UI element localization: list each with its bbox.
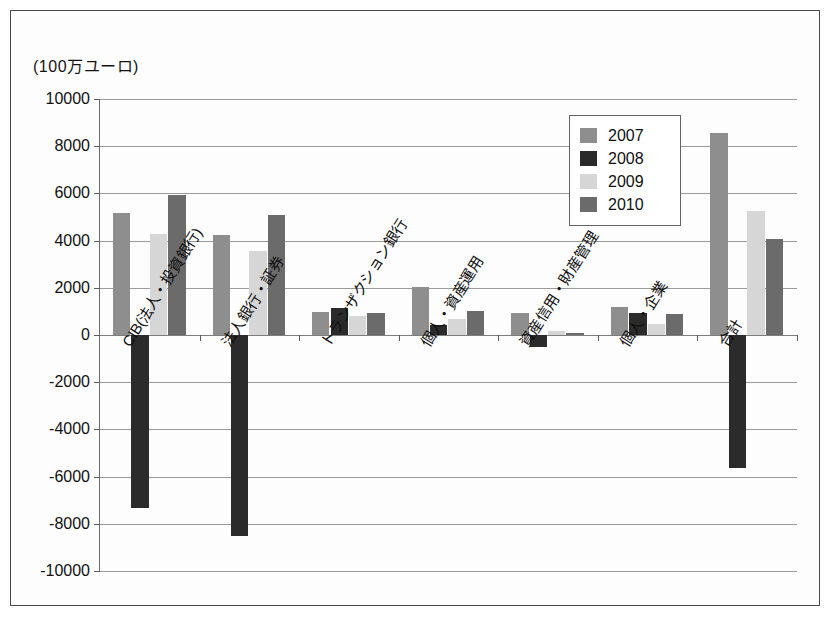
legend-label: 2007	[608, 128, 644, 144]
y-axis-tick-label: -4000	[49, 420, 90, 438]
figure-frame: (100万ユーロ) 1000080006000400020000-2000-40…	[10, 10, 820, 606]
bar-group	[399, 99, 499, 571]
bar-2010-7	[766, 239, 783, 335]
chart-plot-area: 1000080006000400020000-2000-4000-6000-80…	[99, 99, 797, 571]
legend-item-2007: 2007	[580, 124, 670, 147]
gridline	[100, 571, 797, 572]
bar-2007-7	[710, 133, 727, 335]
bar-group	[697, 99, 797, 571]
y-axis-tick-label: -6000	[49, 468, 90, 486]
legend-swatch-icon	[580, 197, 597, 212]
bar-2010-6	[666, 314, 683, 335]
legend-item-2008: 2008	[580, 147, 670, 170]
bar-2009-6	[648, 324, 665, 335]
legend-label: 2010	[608, 197, 644, 213]
bar-group	[200, 99, 300, 571]
y-axis-tick-label: 10000	[46, 90, 91, 108]
bar-2008-7	[729, 335, 746, 468]
y-axis-tick-label: 2000	[54, 279, 90, 297]
y-axis-tick-label: -8000	[49, 515, 90, 533]
y-axis-tick-label: 4000	[54, 232, 90, 250]
bar-2007-1	[113, 213, 130, 335]
chart-legend: 2007200820092010	[569, 115, 681, 226]
legend-label: 2009	[608, 174, 644, 190]
y-axis-tick-label: 6000	[54, 184, 90, 202]
y-axis-tick-label: -2000	[49, 373, 90, 391]
legend-swatch-icon	[580, 151, 597, 166]
legend-item-2009: 2009	[580, 170, 670, 193]
bar-2008-1	[131, 335, 148, 508]
legend-swatch-icon	[580, 128, 597, 143]
y-axis-tick-label: -10000	[40, 562, 90, 580]
bar-2010-4	[467, 311, 484, 335]
x-axis-tick	[797, 335, 798, 341]
bar-2010-3	[367, 313, 384, 335]
bar-group	[100, 99, 200, 571]
legend-item-2010: 2010	[580, 193, 670, 216]
bar-group	[299, 99, 399, 571]
y-axis-tick	[94, 571, 100, 572]
bar-2010-5	[566, 333, 583, 335]
bar-2009-5	[548, 331, 565, 335]
unit-caption: (100万ユーロ)	[33, 53, 139, 77]
legend-label: 2008	[608, 151, 644, 167]
y-axis-tick-label: 8000	[54, 137, 90, 155]
legend-swatch-icon	[580, 174, 597, 189]
bar-2009-4	[448, 319, 465, 335]
chart-canvas: 1000080006000400020000-2000-4000-6000-80…	[99, 99, 797, 571]
y-axis-tick-label: 0	[81, 326, 90, 344]
bar-2008-2	[231, 335, 248, 536]
bar-2009-7	[747, 211, 764, 335]
